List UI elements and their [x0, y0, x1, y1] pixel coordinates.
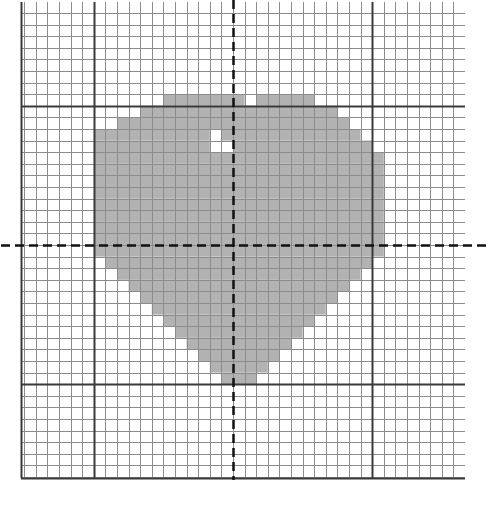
graph-paper-figure [0, 0, 489, 521]
heart-grid-plot [0, 0, 489, 521]
